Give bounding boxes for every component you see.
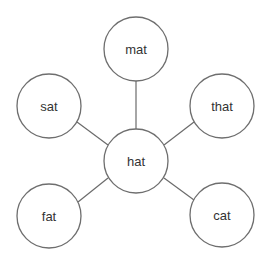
edge-hat-that [164,122,194,145]
node-sat[interactable]: sat [17,74,81,138]
node-label-mat: mat [125,42,147,57]
edge-hat-sat [77,122,108,145]
node-cat[interactable]: cat [190,183,254,247]
node-label-sat: sat [40,99,58,114]
node-label-cat: cat [213,208,231,223]
node-mat[interactable]: mat [104,17,168,81]
node-label-fat: fat [42,209,57,224]
edge-hat-cat [164,178,194,200]
node-label-hat: hat [127,154,145,169]
node-hat[interactable]: hat [104,129,168,193]
node-that[interactable]: that [190,74,254,138]
node-label-that: that [211,99,233,114]
word-diagram: mat sat that hat fat cat [0,0,267,264]
node-fat[interactable]: fat [17,184,81,248]
edge-hat-fat [78,178,108,202]
